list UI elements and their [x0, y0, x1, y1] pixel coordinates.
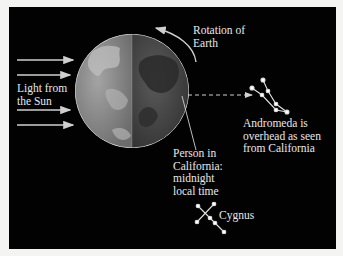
rotation-label: Rotation of Earth: [193, 24, 245, 49]
cygnus-label: Cygnus: [219, 209, 254, 222]
sunlight-label: Light from the Sun: [17, 82, 67, 107]
person-label: Person in California: midnight local tim…: [173, 147, 223, 197]
andromeda-constellation: [250, 78, 289, 114]
person-pointer: [182, 96, 196, 150]
andromeda-label: Andromeda is overhead as seen from Calif…: [243, 117, 321, 155]
